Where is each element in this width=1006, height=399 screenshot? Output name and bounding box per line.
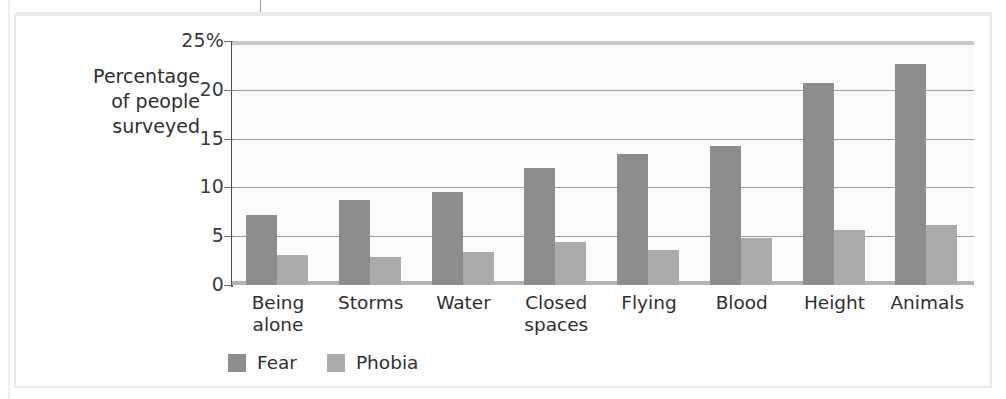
x-tick-label-line-1: Animals <box>872 292 982 314</box>
bar-phobia-animals <box>926 225 957 285</box>
bar-fear-animals <box>895 64 926 285</box>
bar-fear-closed-spaces <box>524 168 555 285</box>
gridline-20 <box>232 90 974 91</box>
figure-page: Percentage of people surveyed 0510152025… <box>0 0 1006 399</box>
bar-phobia-water <box>463 252 494 285</box>
y-tick-label-0: 0 <box>154 273 224 295</box>
y-tick-25 <box>224 41 233 42</box>
y-tick-5 <box>224 236 233 237</box>
x-axis-tick-labels: BeingaloneStormsWaterClosedspacesFlyingB… <box>232 292 974 338</box>
y-axis-tick-labels: 0510152025% <box>148 0 224 399</box>
x-tick-label-animals: Animals <box>872 292 982 314</box>
bar-phobia-blood <box>741 238 772 285</box>
y-tick-label-5: 5 <box>154 224 224 246</box>
legend-item-phobia[interactable]: Phobia <box>327 352 418 373</box>
y-tick-15 <box>224 139 233 140</box>
y-tick-10 <box>224 187 233 188</box>
bar-phobia-being-alone <box>277 255 308 285</box>
bar-fear-height <box>803 83 834 285</box>
legend-label-fear: Fear <box>257 352 297 373</box>
page-edge-artifact <box>8 0 10 399</box>
bar-fear-storms <box>339 200 370 285</box>
bar-phobia-flying <box>648 250 679 285</box>
gridline-10 <box>232 187 974 188</box>
bar-phobia-storms <box>370 257 401 285</box>
legend-swatch-fear <box>228 354 246 372</box>
bar-phobia-closed-spaces <box>555 242 586 285</box>
y-tick-0 <box>224 285 233 286</box>
bar-fear-water <box>432 192 463 285</box>
chart-legend: FearPhobia <box>228 352 418 373</box>
gridline-25 <box>232 41 974 45</box>
y-tick-label-25%: 25% <box>154 29 224 51</box>
bar-fear-being-alone <box>246 215 277 285</box>
plot-area <box>232 41 974 285</box>
x-tick-label-line-2: spaces <box>501 314 611 336</box>
bar-phobia-height <box>834 230 865 285</box>
legend-swatch-phobia <box>327 354 345 372</box>
y-tick-label-10: 10 <box>154 175 224 197</box>
y-tick-20 <box>224 90 233 91</box>
legend-label-phobia: Phobia <box>356 352 418 373</box>
gridline-15 <box>232 139 974 140</box>
legend-item-fear[interactable]: Fear <box>228 352 297 373</box>
x-tick-label-line-2: alone <box>223 314 333 336</box>
bar-fear-blood <box>710 146 741 285</box>
bar-fear-flying <box>617 154 648 285</box>
y-tick-label-15: 15 <box>154 127 224 149</box>
y-tick-label-20: 20 <box>154 78 224 100</box>
